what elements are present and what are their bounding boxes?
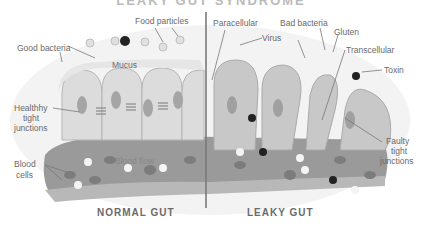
label-food-particles: Food particles: [135, 16, 188, 26]
toxin-icon: [120, 36, 130, 46]
label-healthy-2: tight: [23, 113, 39, 123]
label-toxin: Toxin: [384, 65, 404, 75]
label-good-bacteria: Good bacteria: [17, 43, 70, 53]
label-mucus: Mucus: [112, 60, 137, 70]
label-faulty-1: Faulty: [386, 136, 409, 146]
label-paracellular: Paracellular: [213, 18, 258, 28]
label-faulty-3: junctions: [380, 156, 414, 166]
label-virus: Virus: [262, 33, 281, 43]
label-faulty-2: tight: [391, 146, 407, 156]
label-blood-2: cells: [16, 170, 33, 180]
label-healthy-3: junctions: [14, 123, 48, 133]
heading-normal-gut: NORMAL GUT: [97, 207, 175, 218]
heading-leaky-gut: LEAKY GUT: [247, 207, 314, 218]
label-gluten: Gluten: [334, 27, 359, 37]
label-bad-bacteria: Bad bacteria: [280, 18, 328, 28]
label-transcellular: Transcellular: [346, 45, 394, 55]
label-blood-flow: Blood flow: [115, 156, 154, 166]
label-healthy-1: Healthhy: [14, 103, 48, 113]
label-blood-1: Blood: [14, 159, 36, 169]
